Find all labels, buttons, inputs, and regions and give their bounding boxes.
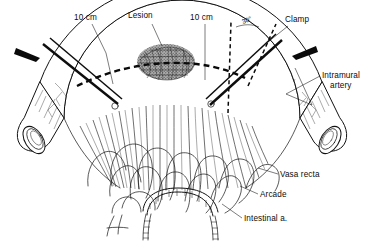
- leader-arcade: [240, 186, 258, 194]
- label-clamp: Clamp: [285, 15, 310, 24]
- label-margin-left: 10 cm: [74, 13, 97, 22]
- bowel-wall-texture: [70, 89, 285, 130]
- clamp-tip-marker-left: [112, 103, 118, 109]
- angle-clamp-line: [248, 24, 276, 86]
- arrow-left: [14, 48, 40, 62]
- leader-vasa-recta: [258, 168, 278, 174]
- mesentery-left-edge: [64, 118, 120, 188]
- leader-intestinal-artery: [222, 204, 242, 218]
- label-arcade: Arcade: [260, 190, 287, 199]
- label-intramural-artery-line2: artery: [330, 81, 352, 90]
- leader-lesion: [152, 24, 162, 46]
- label-intramural-artery-line1: Intramural: [322, 71, 360, 80]
- vasa-recta-group: [80, 105, 279, 190]
- label-intestinal-artery: Intestinal a.: [244, 214, 287, 223]
- arcade-group: [88, 144, 280, 213]
- label-margin-right: 10 cm: [190, 13, 213, 22]
- anatomical-figure: 10 cm Lesion 10 cm 30° Clamp Intramural …: [0, 0, 367, 242]
- figure-canvas: 10 cm Lesion 10 cm 30° Clamp Intramural …: [0, 0, 367, 242]
- label-lesion: Lesion: [128, 11, 153, 20]
- intestinal-artery: [107, 188, 219, 240]
- intestinal-artery-arch-inner: [147, 192, 213, 216]
- angle-reference-line: [228, 22, 231, 113]
- label-vasa-recta: Vasa recta: [280, 170, 320, 179]
